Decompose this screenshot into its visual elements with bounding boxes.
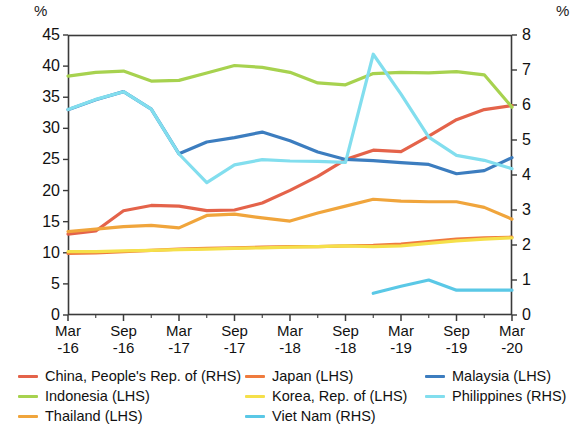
legend-label: China, People's Rep. of (RHS)	[45, 369, 241, 384]
legend-item[interactable]: China, People's Rep. of (RHS)	[18, 369, 241, 384]
legend-label: Indonesia (LHS)	[45, 389, 150, 404]
legend-label: Philippines (RHS)	[452, 389, 566, 404]
legend-color-swatch	[425, 395, 445, 399]
legend-label: Thailand (LHS)	[45, 409, 143, 424]
legend-color-swatch	[18, 415, 38, 419]
legend-label: Viet Nam (RHS)	[272, 409, 376, 424]
chart-legend: China, People's Rep. of (RHS)Indonesia (…	[18, 368, 566, 426]
legend-item[interactable]: Indonesia (LHS)	[18, 389, 150, 404]
legend-item[interactable]: Japan (LHS)	[245, 369, 353, 384]
legend-color-swatch	[245, 415, 265, 419]
legend-color-swatch	[18, 375, 38, 379]
legend-label: Malaysia (LHS)	[452, 369, 551, 384]
legend-label: Japan (LHS)	[272, 369, 353, 384]
legend-label: Korea, Rep. of (LHS)	[272, 389, 407, 404]
plot-frame	[69, 36, 512, 315]
legend-item[interactable]: Thailand (LHS)	[18, 409, 143, 424]
series-line-1	[68, 65, 512, 107]
series-line-7	[373, 280, 512, 293]
legend-item[interactable]: Viet Nam (RHS)	[245, 409, 376, 424]
legend-color-swatch	[18, 395, 38, 399]
legend-color-swatch	[245, 395, 265, 399]
legend-item[interactable]: Philippines (RHS)	[425, 389, 566, 404]
series-line-2	[68, 199, 512, 231]
chart-figure: % % 051015202530354045012345678Mar-16Sep…	[0, 0, 574, 429]
legend-item[interactable]: Korea, Rep. of (LHS)	[245, 389, 407, 404]
plot-area	[0, 0, 574, 429]
legend-item[interactable]: Malaysia (LHS)	[425, 369, 551, 384]
legend-color-swatch	[425, 375, 445, 379]
legend-color-swatch	[245, 375, 265, 379]
